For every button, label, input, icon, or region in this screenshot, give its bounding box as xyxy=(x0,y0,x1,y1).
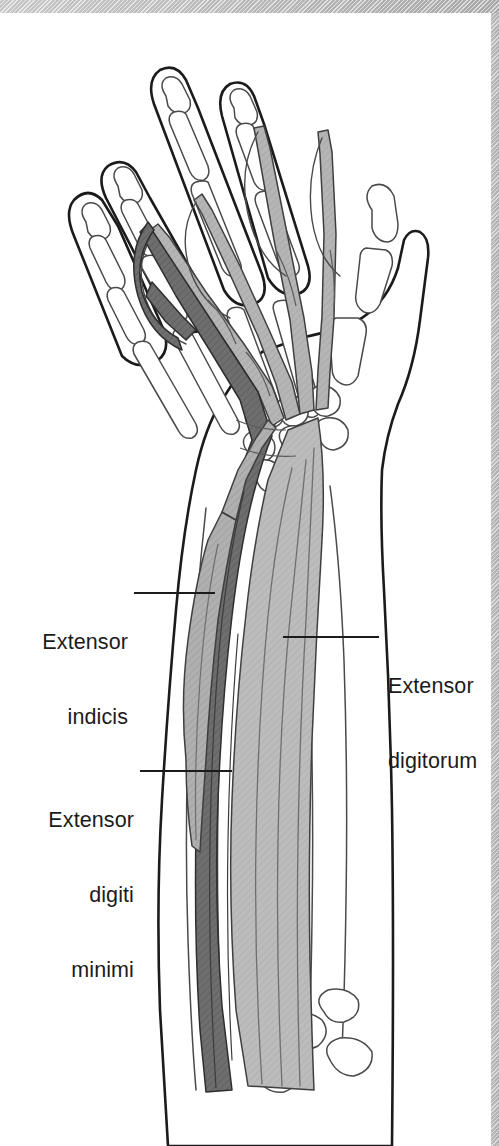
label-extensor-digiti-minimi-line1: Extensor xyxy=(0,808,134,833)
label-extensor-indicis-line2: indicis xyxy=(0,705,128,730)
label-extensor-digitorum-line2: digitorum xyxy=(388,749,499,774)
label-extensor-digiti-minimi: Extensor digiti minimi xyxy=(0,758,134,1033)
label-extensor-digiti-minimi-line2: digiti xyxy=(0,883,134,908)
label-extensor-digitorum-line1: Extensor xyxy=(388,674,499,699)
label-extensor-digitorum: Extensor digitorum xyxy=(388,624,499,824)
anatomy-figure: Extensor indicis Extensor digitorum Exte… xyxy=(0,0,499,1146)
label-extensor-indicis-line1: Extensor xyxy=(0,630,128,655)
label-extensor-indicis: Extensor indicis xyxy=(0,580,128,780)
label-extensor-digiti-minimi-line3: minimi xyxy=(0,958,134,983)
